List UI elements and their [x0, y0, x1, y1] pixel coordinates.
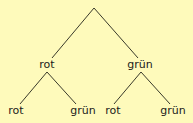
node-l2-rot-gruen: grün	[70, 105, 95, 117]
node-l1-gruen: grün	[127, 59, 152, 71]
edge-root-rot	[52, 8, 94, 58]
node-l2-gruen-gruen: grün	[160, 105, 185, 117]
node-l1-rot: rot	[39, 59, 54, 71]
node-l2-gruen-rot: rot	[105, 105, 120, 117]
node-l2-rot-rot: rot	[8, 105, 23, 117]
edge-rot-rot	[20, 72, 47, 104]
edge-root-gruen	[94, 8, 138, 58]
edge-rot-gruen	[47, 72, 76, 104]
edge-gruen-rot	[114, 72, 141, 104]
edge-gruen-gruen	[141, 72, 170, 104]
tree-diagram: rot grün rot grün rot grün	[0, 0, 193, 123]
